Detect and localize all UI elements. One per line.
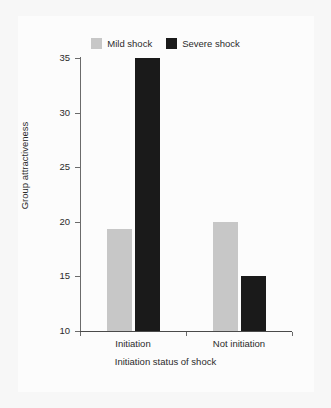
y-axis-tick-label: 20 xyxy=(46,217,70,227)
x-axis-category-label: Not initiation xyxy=(186,338,292,350)
y-axis-tick-label: 10 xyxy=(46,326,70,336)
bar-initiation-severe-shock xyxy=(135,58,160,331)
x-axis-tick xyxy=(292,332,293,336)
x-axis-tick xyxy=(186,332,187,336)
bar-not-initiation-severe-shock xyxy=(241,276,266,331)
y-axis-tick-label: 35 xyxy=(46,53,70,63)
bar-not-initiation-mild-shock xyxy=(213,222,238,331)
x-axis-title: Initiation status of shock xyxy=(0,356,331,367)
y-axis-tick-label: 25 xyxy=(46,162,70,172)
y-axis-tick-label: 30 xyxy=(46,108,70,118)
chart-figure: Mild shock Severe shock 101520253035Init… xyxy=(0,0,331,408)
bar-initiation-mild-shock xyxy=(107,229,132,331)
plot-area xyxy=(80,58,292,331)
y-axis-tick-label: 15 xyxy=(46,271,70,281)
x-axis-category-label: Initiation xyxy=(80,338,186,350)
y-axis-title: Group attractiveness xyxy=(19,91,30,241)
x-axis-tick xyxy=(80,332,81,336)
